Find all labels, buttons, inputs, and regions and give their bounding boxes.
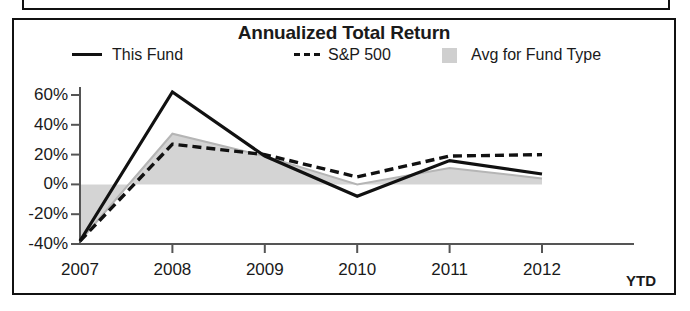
y-axis-tick-label: 40% xyxy=(6,115,68,135)
chart-screenshot: Annualized Total Return This Fund S&P 50… xyxy=(0,0,690,311)
y-axis-tick-label: 60% xyxy=(6,85,68,105)
x-axis-tick-label: 2012 xyxy=(507,260,577,280)
x-axis-tick-label: 2008 xyxy=(137,260,207,280)
plot-area: 60%40%20%0%-20%-40% 20072008200920102011… xyxy=(14,20,678,297)
x-axis-ytd-note: YTD xyxy=(626,272,656,289)
chart-panel: Annualized Total Return This Fund S&P 50… xyxy=(12,18,676,295)
y-axis-tick-label: -40% xyxy=(6,234,68,254)
x-axis-tick-label: 2010 xyxy=(322,260,392,280)
line-series-sp500 xyxy=(80,144,542,241)
x-axis-tick-label: 2009 xyxy=(230,260,300,280)
x-axis-tick-label: 2007 xyxy=(45,260,115,280)
y-axis-tick-label: 0% xyxy=(6,174,68,194)
y-axis-tick-label: -20% xyxy=(6,204,68,224)
y-axis-tick-label: 20% xyxy=(6,145,68,165)
x-axis-tick-label: 2011 xyxy=(415,260,485,280)
clipped-upper-panel xyxy=(22,0,670,10)
area-series-avg-fund-type xyxy=(80,134,542,241)
plot-svg xyxy=(14,20,678,297)
